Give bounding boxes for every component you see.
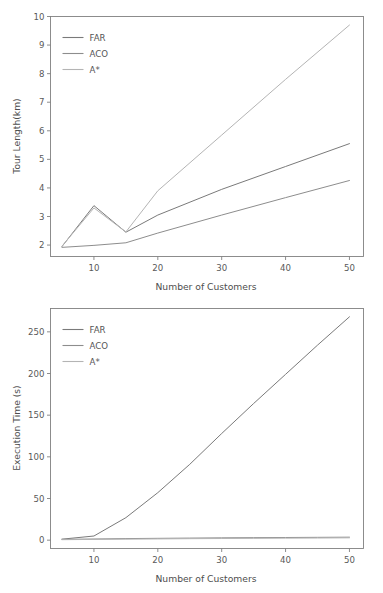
y-axis-ticks-top: 2345678910 (34, 12, 51, 251)
legend-label-astar: A* (90, 357, 101, 367)
x-tick-label: 40 (280, 555, 291, 565)
y-tick-label: 0 (39, 535, 44, 545)
y-tick-label: 50 (34, 494, 45, 504)
x-tick-label: 10 (88, 263, 99, 273)
x-tick-label: 50 (344, 555, 355, 565)
legend-label-aco: ACO (90, 341, 109, 351)
y-tick-label: 100 (28, 452, 44, 462)
legend-bottom: FARACOA* (58, 317, 136, 375)
tour-length-chart-svg: 2345678910 1020304050 FARACOA* Number of… (0, 0, 383, 300)
y-tick-label: 200 (28, 369, 44, 379)
y-tick-label: 2 (39, 240, 44, 250)
x-tick-label: 20 (152, 263, 163, 273)
x-tick-label: 20 (152, 555, 163, 565)
legend-label-far: FAR (90, 33, 106, 43)
x-tick-label: 10 (88, 555, 99, 565)
legend-label-astar: A* (90, 65, 101, 75)
legend-label-aco: ACO (90, 49, 109, 59)
y-tick-label: 8 (39, 69, 44, 79)
legend-top: FARACOA* (58, 25, 136, 83)
tour-length-panel: 2345678910 1020304050 FARACOA* Number of… (0, 0, 383, 300)
y-tick-label: 150 (28, 410, 44, 420)
x-tick-label: 30 (216, 263, 227, 273)
x-axis-ticks-bottom: 1020304050 (88, 549, 354, 565)
y-tick-label: 3 (39, 212, 44, 222)
x-axis-title-top: Number of Customers (155, 281, 256, 292)
y-tick-label: 250 (28, 327, 44, 337)
series-line-aco (62, 181, 349, 248)
y-tick-label: 4 (39, 183, 44, 193)
series-line-far (62, 144, 349, 247)
x-axis-title-bottom: Number of Customers (155, 573, 256, 584)
y-axis-ticks-bottom: 050100150200250 (28, 327, 50, 545)
x-tick-label: 50 (344, 263, 355, 273)
y-tick-label: 7 (39, 97, 44, 107)
x-tick-label: 30 (216, 555, 227, 565)
legend-label-far: FAR (90, 325, 106, 335)
y-tick-label: 5 (39, 154, 44, 164)
y-axis-title-bottom: Execution Time (s) (11, 385, 22, 470)
figure-canvas: 2345678910 1020304050 FARACOA* Number of… (0, 0, 383, 593)
y-tick-label: 9 (39, 40, 44, 50)
x-axis-ticks-top: 1020304050 (88, 257, 354, 273)
execution-time-panel: 050100150200250 1020304050 FARACOA* Numb… (0, 300, 383, 593)
y-tick-label: 10 (34, 12, 45, 22)
y-axis-title-top: Tour Length(km) (11, 98, 22, 174)
y-tick-label: 6 (39, 126, 44, 136)
x-tick-label: 40 (280, 263, 291, 273)
execution-time-chart-svg: 050100150200250 1020304050 FARACOA* Numb… (0, 300, 383, 593)
